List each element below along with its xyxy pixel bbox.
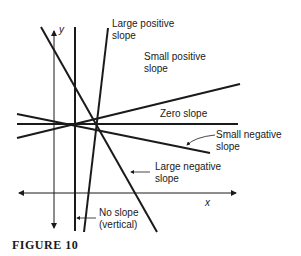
label-vertical: No slope (vertical): [99, 207, 138, 231]
label-large-positive: Large positive slope: [112, 18, 174, 42]
large-negative-slope-line: [41, 27, 157, 232]
label-small-positive: Small positive slope: [144, 51, 206, 75]
label-zero-slope: Zero slope: [160, 108, 207, 120]
figure-caption: FIGURE 10: [12, 238, 78, 253]
label-large-negative: Large negative slope: [155, 161, 221, 185]
y-axis-label: y: [59, 24, 64, 35]
label-small-negative: Small negative slope: [216, 129, 282, 153]
large-positive-slope-line: [84, 28, 108, 232]
slope-diagram: y x Large positive slope Small positive …: [0, 0, 301, 256]
small-negative-leader: [187, 135, 215, 145]
x-axis-label: x: [205, 197, 210, 208]
